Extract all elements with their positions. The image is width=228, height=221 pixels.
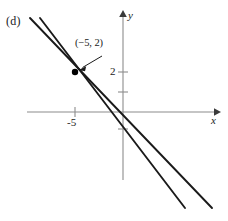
x-axis-label: x <box>211 115 216 126</box>
y-axis <box>118 10 128 180</box>
intersection-point-dot <box>72 69 78 75</box>
x-tick-label-neg5: -5 <box>67 117 76 128</box>
intersection-point-label: (−5, 2) <box>75 38 103 49</box>
graph-figure: (d) y x -5 2 (−5, 2) <box>0 0 228 221</box>
coordinate-plane <box>0 0 228 221</box>
y-axis-label: y <box>128 10 133 21</box>
part-label: (d) <box>6 15 21 27</box>
y-tick-label-2: 2 <box>110 66 116 77</box>
graph-line-1 <box>30 18 212 208</box>
annotation-leader-arrow-icon <box>79 56 103 71</box>
y-axis-arrow-icon <box>119 10 127 17</box>
graph-line-2 <box>40 18 185 208</box>
